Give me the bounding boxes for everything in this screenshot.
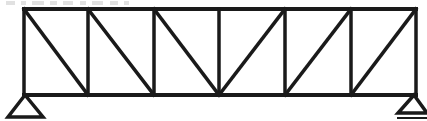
vertical-members-group <box>24 9 416 95</box>
diagonal-panel-5 <box>285 9 351 95</box>
support-left-pin <box>8 95 43 117</box>
support-right-roller <box>398 95 427 113</box>
diagonal-panel-6 <box>351 9 416 95</box>
truss-diagram-canvas <box>0 0 427 121</box>
diagonal-panel-4 <box>219 9 285 95</box>
diagonal-panel-1 <box>24 9 88 95</box>
diagonal-panel-2 <box>88 9 154 95</box>
truss-figure <box>0 0 427 121</box>
supports-group <box>8 95 427 118</box>
diagonal-panel-3 <box>154 9 219 95</box>
